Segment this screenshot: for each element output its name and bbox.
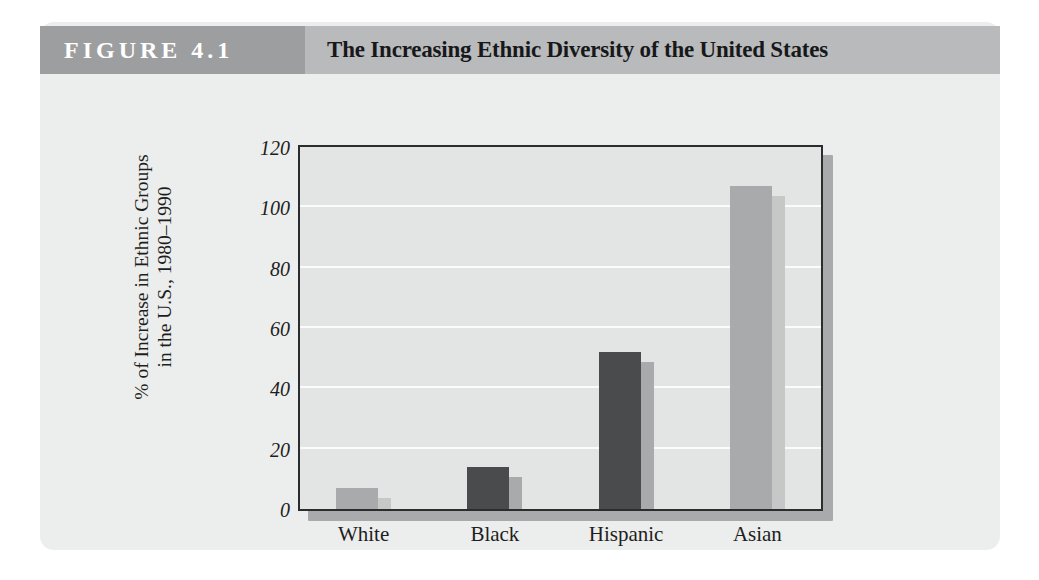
y-axis-tick-label: 40 — [230, 378, 290, 401]
bar-side-face — [772, 196, 785, 509]
y-axis-tick-label: 80 — [230, 258, 290, 281]
bar-side-face — [641, 362, 654, 509]
bar-group — [730, 186, 785, 509]
bar-side-face — [509, 477, 522, 509]
bar-side-face — [378, 498, 391, 509]
figure-card: FIGURE 4.1 The Increasing Ethnic Diversi… — [40, 22, 1000, 550]
y-axis-tick-label: 0 — [230, 499, 290, 522]
y-axis-title-line-2: in the U.S., 1980–1990 — [153, 112, 176, 442]
y-axis-tick-label: 120 — [230, 137, 290, 160]
y-axis-tick-labels: 020406080100120 — [226, 145, 290, 511]
y-axis-title-line-1: % of Increase in Ethnic Groups — [130, 112, 153, 442]
figure-title: The Increasing Ethnic Diversity of the U… — [327, 37, 828, 63]
plot-area — [298, 145, 823, 511]
bar[interactable] — [467, 467, 509, 509]
y-axis-title: % of Increase in Ethnic Groups in the U.… — [130, 112, 176, 442]
x-axis-tick-label: White — [298, 522, 429, 547]
figure-number-label: FIGURE 4.1 — [64, 37, 233, 64]
bar[interactable] — [730, 186, 772, 509]
bar-group — [467, 467, 522, 509]
bar-group — [599, 352, 654, 509]
y-axis-tick-label: 20 — [230, 439, 290, 462]
bar[interactable] — [336, 488, 378, 509]
y-axis-tick-label: 60 — [230, 318, 290, 341]
x-axis-tick-label: Hispanic — [561, 522, 692, 547]
y-axis-tick-label: 100 — [230, 197, 290, 220]
bar[interactable] — [599, 352, 641, 509]
bar-group — [336, 488, 391, 509]
x-axis-tick-label: Asian — [692, 522, 823, 547]
figure-header-band: FIGURE 4.1 The Increasing Ethnic Diversi… — [40, 26, 1000, 74]
x-axis-tick-label: Black — [429, 522, 560, 547]
bar-chart: % of Increase in Ethnic Groups in the U.… — [40, 74, 1000, 550]
